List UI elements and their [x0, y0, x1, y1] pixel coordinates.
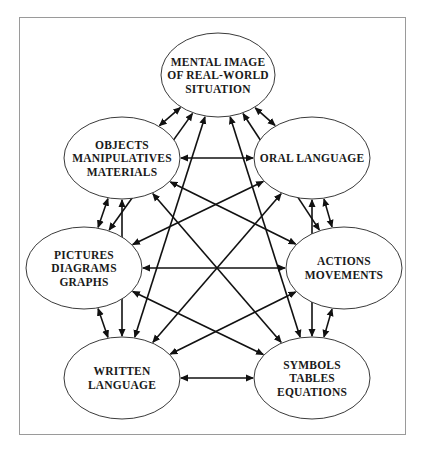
arrow-pictures-written — [98, 309, 108, 337]
node-pictures: PICTURESDIAGRAMSGRAPHS — [26, 227, 142, 309]
node-label-mental: SITUATION — [185, 83, 251, 95]
node-label-pictures: DIAGRAMS — [51, 262, 117, 274]
node-mental: MENTAL IMAGEOF REAL-WORLDSITUATION — [161, 33, 275, 117]
node-label-oral: ORAL LANGUAGE — [260, 152, 365, 164]
node-label-actions: MOVEMENTS — [305, 269, 383, 281]
node-label-symbols: EQUATIONS — [277, 386, 347, 398]
arrow-actions-symbols — [324, 309, 332, 337]
node-oral: ORAL LANGUAGE — [254, 117, 370, 199]
node-label-pictures: GRAPHS — [59, 276, 108, 288]
node-written: WRITTENLANGUAGE — [64, 337, 180, 419]
node-label-mental: OF REAL-WORLD — [167, 69, 269, 81]
node-label-symbols: TABLES — [289, 372, 335, 384]
node-label-written: WRITTEN — [94, 365, 151, 377]
node-label-objects: MANIPULATIVES — [72, 152, 172, 164]
node-label-pictures: PICTURES — [54, 249, 114, 261]
representation-diagram: MENTAL IMAGEOF REAL-WORLDSITUATIONOBJECT… — [0, 0, 425, 451]
node-label-symbols: SYMBOLS — [283, 359, 341, 371]
arrow-mental-objects — [160, 108, 181, 126]
nodes-layer: MENTAL IMAGEOF REAL-WORLDSITUATIONOBJECT… — [26, 33, 402, 419]
node-label-mental: MENTAL IMAGE — [171, 56, 266, 68]
node-label-actions: ACTIONS — [317, 255, 371, 267]
node-actions: ACTIONSMOVEMENTS — [286, 227, 402, 309]
node-label-written: LANGUAGE — [88, 379, 156, 391]
node-label-objects: MATERIALS — [87, 166, 158, 178]
node-symbols: SYMBOLSTABLESEQUATIONS — [254, 337, 370, 419]
arrow-oral-actions — [324, 199, 332, 227]
arrow-objects-pictures — [98, 199, 108, 227]
node-label-objects: OBJECTS — [95, 139, 149, 151]
arrow-mental-oral — [255, 108, 275, 125]
node-objects: OBJECTSMANIPULATIVESMATERIALS — [64, 117, 180, 199]
